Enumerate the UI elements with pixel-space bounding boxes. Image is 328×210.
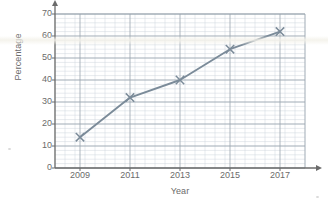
x-tick-label: 2015	[208, 170, 252, 180]
x-tick-label: 2009	[58, 170, 102, 180]
y-tick-label: 30	[26, 96, 52, 106]
y-axis-arrow	[52, 0, 58, 6]
y-tick-label: 60	[26, 30, 52, 40]
y-tick-label: 0	[26, 162, 52, 172]
axis-lines	[52, 0, 322, 171]
scan-speck	[316, 196, 319, 198]
y-tick-label: 20	[26, 118, 52, 128]
x-axis-title: Year	[55, 186, 305, 196]
x-tick-label: 2011	[108, 170, 152, 180]
y-axis-tick-labels: 010203040506070	[20, 0, 52, 210]
y-tick-label: 10	[26, 140, 52, 150]
grid-major	[55, 14, 305, 168]
y-tick-label: 50	[26, 52, 52, 62]
scan-speck	[8, 148, 11, 150]
y-tick-label: 40	[26, 74, 52, 84]
line-chart: Percentage 010203040506070 2009201120132…	[0, 0, 328, 210]
y-tick-label: 70	[26, 8, 52, 18]
x-tick-label: 2017	[258, 170, 302, 180]
x-axis-arrow	[316, 165, 322, 171]
tick-marks	[52, 14, 280, 171]
x-tick-label: 2013	[158, 170, 202, 180]
